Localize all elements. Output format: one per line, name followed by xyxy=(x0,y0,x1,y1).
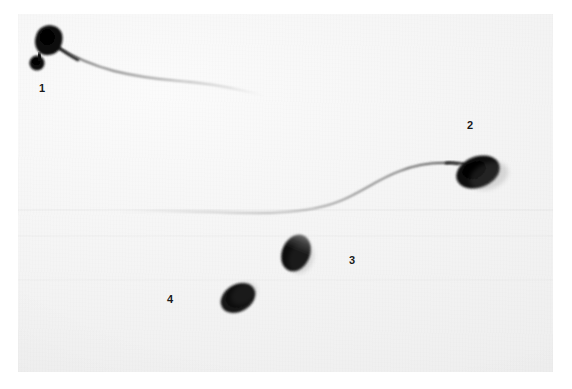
cell-label-4: 4 xyxy=(167,294,173,305)
micrograph-plate xyxy=(18,14,553,372)
cell-label-3: 3 xyxy=(349,255,355,266)
cell-label-1: 1 xyxy=(39,83,45,94)
plate-vignette xyxy=(18,14,553,372)
cell-label-2: 2 xyxy=(467,120,473,131)
figure-page: 1 2 3 4 xyxy=(0,0,572,389)
